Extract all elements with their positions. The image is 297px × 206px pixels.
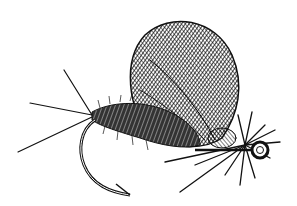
hook-eye <box>252 142 268 158</box>
fly-illustration: Fishing fly illustration <box>0 0 297 206</box>
